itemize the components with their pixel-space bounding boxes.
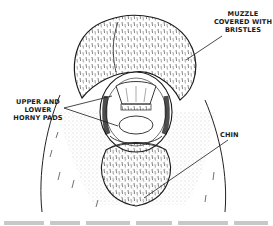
label-line: MUZZLE	[213, 10, 273, 18]
mouth-opening	[100, 72, 172, 152]
label-line: BRISTLES	[213, 26, 273, 34]
label-line: LOWER	[12, 106, 64, 114]
label-horny-pads: UPPER AND LOWER HORNY PADS	[12, 98, 64, 122]
label-chin: CHIN	[220, 131, 250, 139]
label-muzzle-bristles: MUZZLE COVERED WITH BRISTLES	[213, 10, 273, 34]
label-line: COVERED WITH	[213, 18, 273, 26]
label-line: UPPER AND	[12, 98, 64, 106]
cropped-caption	[0, 220, 273, 226]
label-line: HORNY PADS	[12, 114, 64, 122]
label-line: CHIN	[220, 131, 250, 139]
